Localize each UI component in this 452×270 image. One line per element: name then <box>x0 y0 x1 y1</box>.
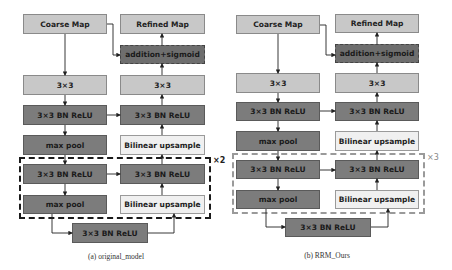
connection-arrows <box>0 0 452 270</box>
